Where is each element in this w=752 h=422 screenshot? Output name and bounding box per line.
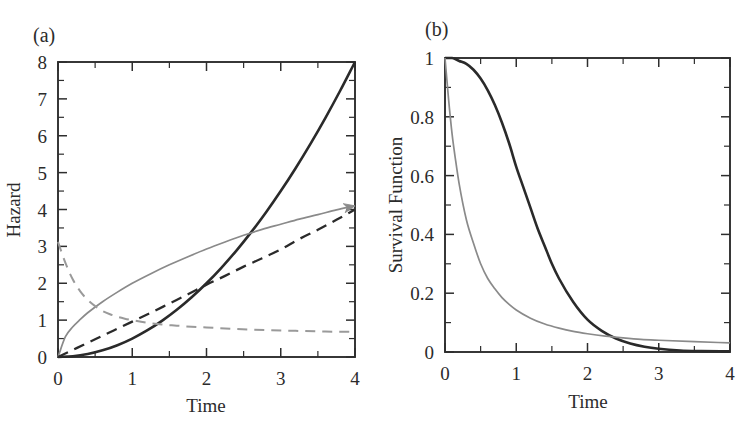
panel-a-tag: (a) <box>33 24 55 47</box>
panel-a-hazard: (a) 01234012345678 Time Hazard <box>0 0 380 422</box>
series-weibull-survival-black <box>445 58 730 351</box>
y-tick-label: 5 <box>38 163 48 184</box>
series-decreasing-gray-dashed <box>58 242 355 332</box>
y-tick-label: 3 <box>38 236 48 257</box>
y-tick-label: 0.6 <box>410 166 434 187</box>
panel-a-frame <box>58 62 355 357</box>
panel-b-curves <box>445 58 730 351</box>
y-tick-label: 4 <box>38 200 48 221</box>
x-tick-label: 1 <box>128 368 138 389</box>
panel-a-svg: (a) 01234012345678 Time Hazard <box>0 0 380 422</box>
panel-a-xlabel: Time <box>186 395 225 416</box>
y-tick-label: 6 <box>38 126 48 147</box>
panel-b-xlabel: Time <box>568 391 607 412</box>
y-tick-label: 8 <box>38 52 48 73</box>
panel-b-ticks <box>445 58 730 352</box>
y-tick-label: 1 <box>38 310 48 331</box>
panel-b-tag: (b) <box>425 18 448 41</box>
y-tick-label: 0.4 <box>410 224 434 245</box>
series-increasing-convex-black <box>58 62 355 357</box>
x-tick-label: 2 <box>583 363 593 384</box>
panel-b-svg: (b) 0123400.20.40.60.81 Time Survival Fu… <box>380 0 752 422</box>
panel-b-labels: 0123400.20.40.60.81 <box>410 48 735 384</box>
panel-a-labels: 01234012345678 <box>38 52 361 389</box>
x-tick-label: 0 <box>440 363 450 384</box>
panel-b-ylabel: Survival Function <box>385 136 406 273</box>
figure-root: (a) 01234012345678 Time Hazard (b) 01234… <box>0 0 752 422</box>
y-tick-label: 0.2 <box>410 283 434 304</box>
y-tick-label: 7 <box>38 89 48 110</box>
x-tick-label: 3 <box>276 368 286 389</box>
x-tick-label: 4 <box>725 363 735 384</box>
panel-b-survival: (b) 0123400.20.40.60.81 Time Survival Fu… <box>380 0 752 422</box>
x-tick-label: 3 <box>654 363 664 384</box>
y-tick-label: 0 <box>38 347 48 368</box>
y-tick-label: 1 <box>425 48 435 69</box>
panel-a-ticks <box>58 62 355 357</box>
y-tick-label: 0.8 <box>410 107 434 128</box>
series-exponential-survival-gray <box>445 58 730 343</box>
x-tick-label: 4 <box>350 368 360 389</box>
x-tick-label: 1 <box>512 363 522 384</box>
panel-a-curves <box>58 62 356 357</box>
y-tick-label: 0 <box>425 342 435 363</box>
x-tick-label: 0 <box>53 368 63 389</box>
panel-b-frame <box>445 58 730 352</box>
series-increasing-concave-gray <box>58 206 355 357</box>
panel-a-ylabel: Hazard <box>3 182 24 237</box>
x-tick-label: 2 <box>202 368 212 389</box>
y-tick-label: 2 <box>38 273 48 294</box>
